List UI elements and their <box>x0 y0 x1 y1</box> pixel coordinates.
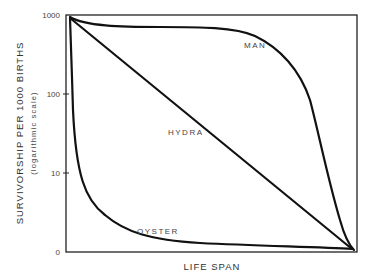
oyster-label: OYSTER <box>137 227 179 236</box>
y-axis-label: SURVIVORSHIP PER 1000 BIRTHS <box>14 42 25 225</box>
y-tick-1000: 1000 <box>42 11 60 20</box>
y-tick-10: 10 <box>51 169 60 178</box>
man-label: MAN <box>244 41 266 50</box>
y-tick-100: 100 <box>47 90 61 99</box>
y-tick-0: 0 <box>56 248 61 257</box>
y-axis-sublabel: (logarithmic scale) <box>29 91 38 175</box>
x-axis-label: LIFE SPAN <box>184 261 241 272</box>
hydra-line <box>70 18 352 249</box>
survivorship-chart: 1000 100 10 0 SURVIVORSHIP PER 1000 BIRT… <box>0 0 372 278</box>
hydra-label: HYDRA <box>168 128 204 137</box>
y-axis-ticks: 1000 100 10 0 <box>42 11 69 257</box>
